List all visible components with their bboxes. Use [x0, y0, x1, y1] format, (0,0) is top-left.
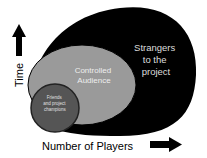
x-axis-label: Number of Players	[42, 140, 134, 152]
time-arrow-icon	[12, 24, 26, 56]
controlled-audience-label: Controlled Audience	[75, 66, 114, 85]
players-arrow-icon	[150, 137, 182, 152]
audience-diagram: Strangers to the project Controlled Audi…	[0, 0, 207, 158]
y-axis-label: Time	[13, 63, 25, 87]
